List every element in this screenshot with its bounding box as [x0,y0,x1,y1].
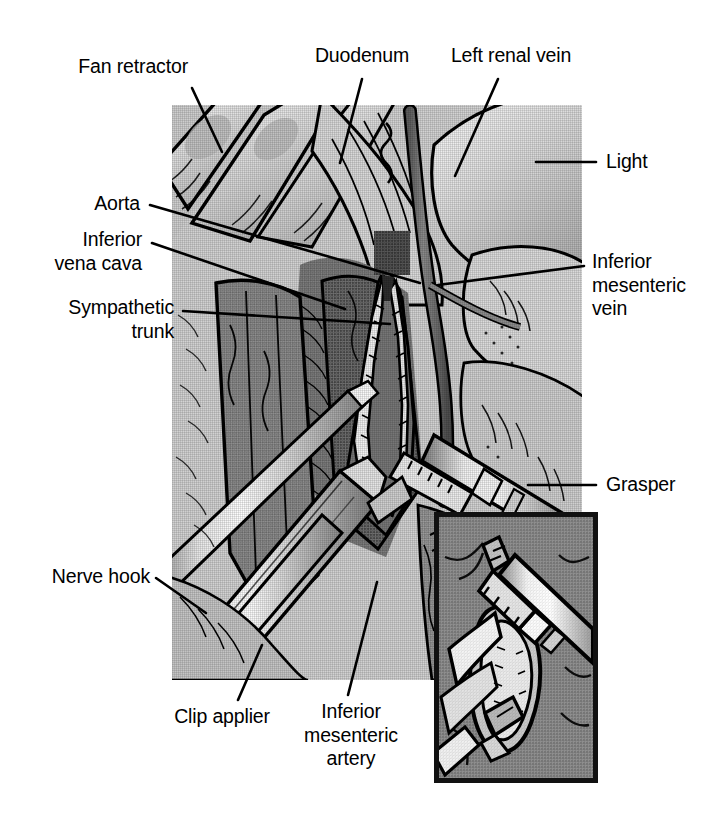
label-aorta: Aorta [10,192,140,216]
label-inferior-vena-cava: Inferior vena cava [10,228,142,275]
label-duodenum: Duodenum [292,44,432,68]
clip-applier-closeup-illustration [434,512,598,783]
label-clip-applier: Clip applier [138,705,306,729]
figure-canvas: Fan retractor Duodenum Left renal vein L… [0,0,716,837]
clip-applier-closeup-artwork [439,517,593,778]
label-grasper: Grasper [606,473,710,497]
label-inferior-mesenteric-artery: Inferior mesenteric artery [288,700,414,771]
label-fan-retractor: Fan retractor [18,55,188,79]
label-inferior-mesenteric-vein: Inferior mesenteric vein [592,250,712,321]
label-nerve-hook: Nerve hook [8,565,150,589]
label-light: Light [606,150,706,174]
label-left-renal-vein: Left renal vein [438,44,584,68]
label-sympathetic-trunk: Sympathetic trunk [6,296,174,343]
